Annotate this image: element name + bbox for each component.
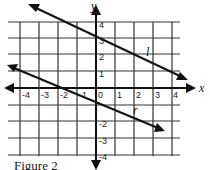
coordinate-plane: x y l r -4 -3 -2 -1 0 1 2 3 4 4 3 2 1 -2… <box>0 0 210 170</box>
x-axis-label: x <box>198 81 205 95</box>
svg-text:3: 3 <box>99 36 104 46</box>
svg-text:-4: -4 <box>99 152 107 162</box>
svg-text:0: 0 <box>98 90 103 100</box>
svg-text:4: 4 <box>99 20 104 30</box>
line-l <box>28 4 188 80</box>
svg-text:4: 4 <box>173 90 178 100</box>
svg-text:3: 3 <box>155 90 160 100</box>
svg-text:-4: -4 <box>22 90 30 100</box>
svg-text:-3: -3 <box>41 90 49 100</box>
y-axis-label: y <box>90 0 97 13</box>
svg-text:-2: -2 <box>99 119 107 129</box>
line-r-label: r <box>133 103 138 117</box>
x-tick-labels: -4 -3 -2 -1 0 1 2 3 4 <box>22 90 178 100</box>
svg-text:-1: -1 <box>79 90 87 100</box>
line-l-label: l <box>146 45 150 59</box>
figure-caption: Figure 2 <box>14 158 58 170</box>
svg-text:-2: -2 <box>60 90 68 100</box>
svg-text:-3: -3 <box>99 136 107 146</box>
svg-text:2: 2 <box>136 90 141 100</box>
svg-text:1: 1 <box>99 69 104 79</box>
svg-text:1: 1 <box>117 90 122 100</box>
svg-text:2: 2 <box>99 52 104 62</box>
